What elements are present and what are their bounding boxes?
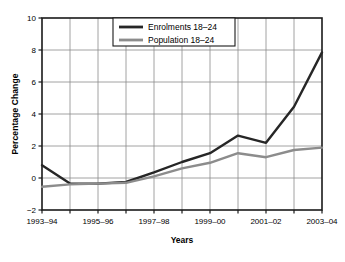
- chart-legend: Enrolments 18–24Population 18–24: [113, 18, 235, 46]
- y-tick-label: 0: [32, 174, 37, 183]
- x-tick-label: 1993–94: [26, 217, 58, 226]
- legend-label: Enrolments 18–24: [148, 22, 217, 32]
- y-tick-label: −2: [27, 206, 37, 215]
- x-tick-label: 1995–96: [82, 217, 114, 226]
- chart-container: −20246810 1993–941995–961997–981999–0020…: [0, 0, 345, 262]
- x-axis-title: Years: [171, 235, 194, 245]
- y-axis-title: Percentage Change: [10, 73, 20, 154]
- x-tick-label: 2001–02: [250, 217, 282, 226]
- x-tick-label: 1999–00: [194, 217, 226, 226]
- y-tick-label: 10: [27, 14, 36, 23]
- y-tick-label: 2: [32, 142, 37, 151]
- x-tick-label: 1997–98: [138, 217, 170, 226]
- y-tick-label: 8: [32, 46, 37, 55]
- legend-label: Population 18–24: [148, 35, 214, 45]
- y-tick-label: 6: [32, 78, 37, 87]
- x-tick-label: 2003–04: [306, 217, 338, 226]
- line-chart: −20246810 1993–941995–961997–981999–0020…: [0, 0, 345, 262]
- y-tick-label: 4: [32, 110, 37, 119]
